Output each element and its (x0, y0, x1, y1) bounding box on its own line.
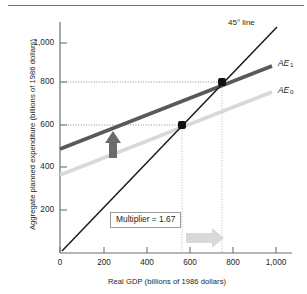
x-tick-label-800: 800 (218, 258, 248, 267)
x-tick-label-0: 0 (45, 258, 75, 267)
series-line-ae1 (60, 66, 272, 149)
y-tick-label-200: 200 (20, 205, 54, 214)
x-tick-label-400: 400 (132, 258, 162, 267)
series-label-ae0-subscript: 0 (289, 88, 293, 95)
y-tick-label-400: 400 (20, 162, 54, 171)
y-axis-title: Aggregate planned expenditure (billions … (28, 35, 37, 235)
gdp-increase-arrow-icon (186, 228, 224, 248)
y-tick-label-1000: 1,000 (20, 38, 54, 47)
series-label-ae1: AE1 (278, 58, 293, 68)
x-tick-label-200: 200 (89, 258, 119, 267)
series-label-ae1-base: AE (278, 58, 289, 68)
equilibrium-point-new (218, 78, 226, 86)
y-tick-label-800: 800 (20, 77, 54, 86)
multiplier-annotation-box: Multiplier = 1.67 (110, 212, 181, 228)
x-tick-label-600: 600 (175, 258, 205, 267)
figure-container: 1,000 800 600 400 200 0 200 400 600 800 … (0, 0, 307, 294)
x-axis-ticks (60, 247, 276, 253)
x-axis-title: Real GDP (billions of 1986 dollars) (108, 277, 226, 286)
x-tick-label-1000: 1,000 (261, 258, 291, 267)
series-line-ae0 (60, 92, 272, 175)
series-label-ae0-base: AE (278, 85, 289, 95)
series-label-ae0: AE0 (278, 85, 293, 95)
series-label-45-degree-line: 45° line (228, 18, 255, 27)
series-label-ae1-subscript: 1 (289, 61, 293, 68)
guide-lines-vertical (182, 82, 222, 253)
y-axis-ticks (60, 43, 67, 210)
equilibrium-point-initial (178, 121, 186, 129)
y-tick-label-600: 600 (20, 120, 54, 129)
